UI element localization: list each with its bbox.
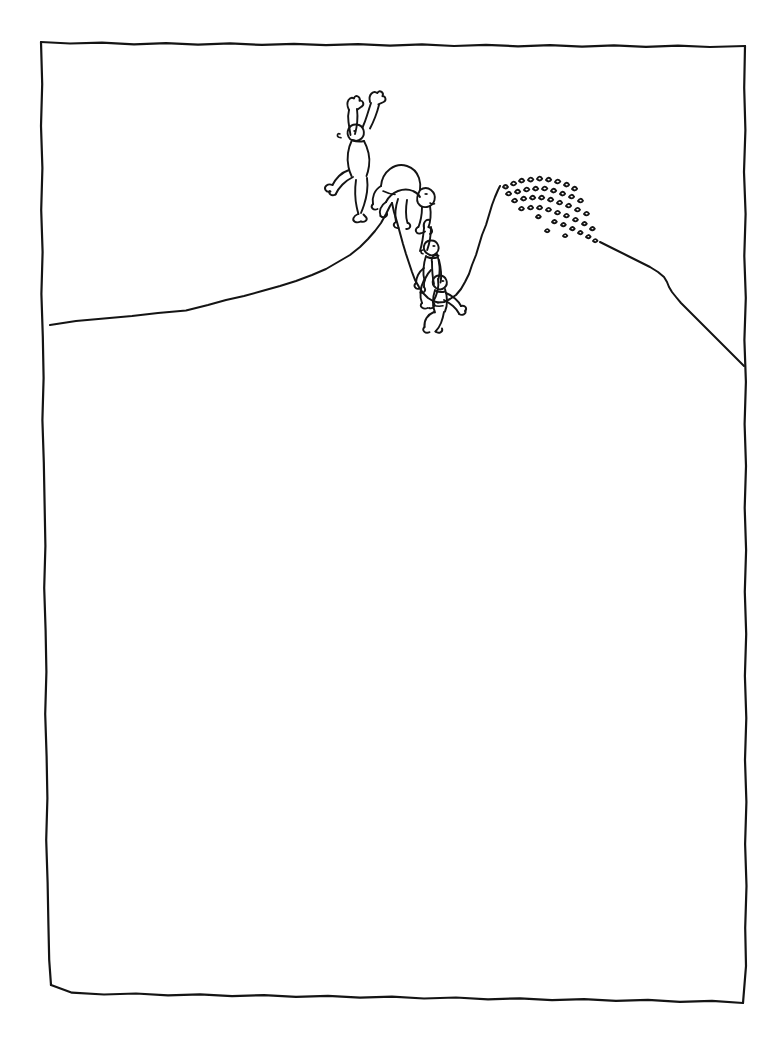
artboard: A chain of four figures helps one anothe… xyxy=(0,0,782,1049)
paper-background xyxy=(0,0,782,1049)
line-drawing-canvas xyxy=(0,0,782,1049)
